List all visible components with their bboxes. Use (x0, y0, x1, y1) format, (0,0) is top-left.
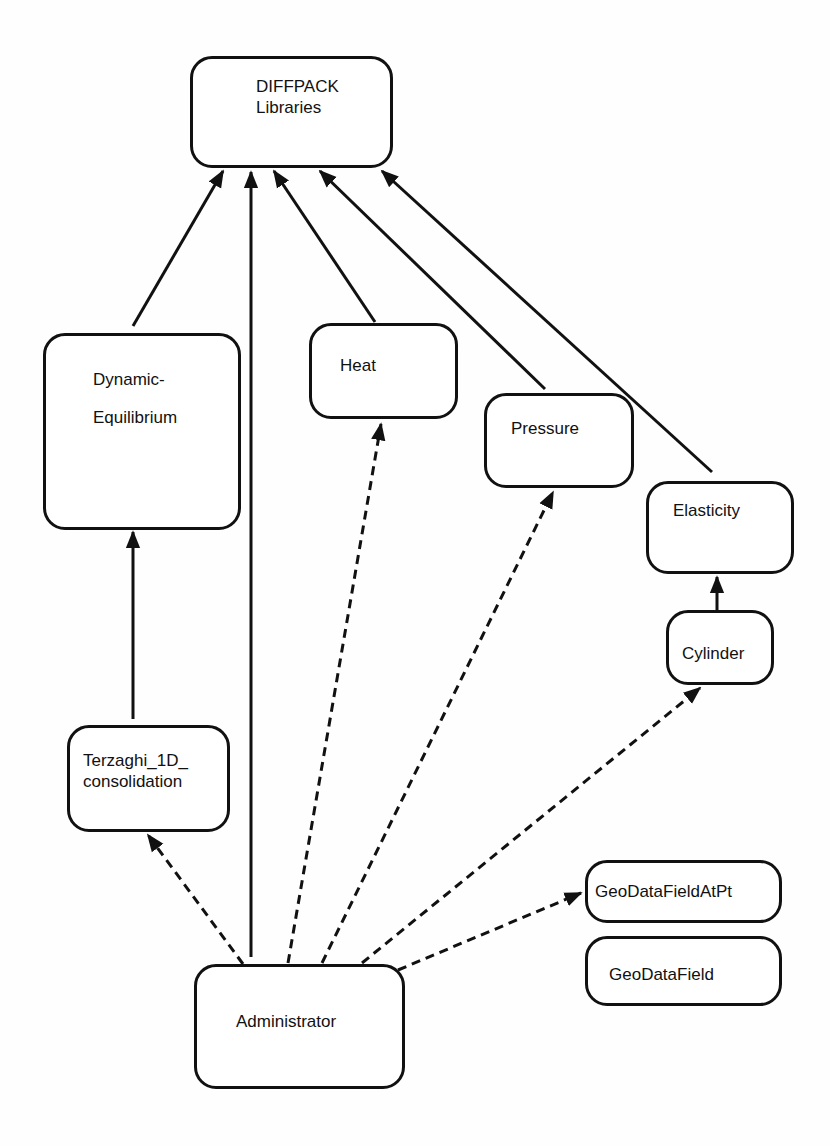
node-label: DIFFPACK Libraries (256, 76, 339, 119)
edge-admin-to-heat (288, 424, 381, 963)
node-dynamic-equilibrium: Dynamic- Equilibrium (43, 333, 241, 530)
node-elasticity: Elasticity (646, 481, 794, 574)
node-diffpack-libraries: DIFFPACK Libraries (190, 56, 393, 168)
node-label: Administrator (236, 1011, 336, 1032)
edge-admin-to-terzaghi (148, 835, 243, 964)
node-label: Dynamic- Equilibrium (93, 370, 177, 427)
node-label: Terzaghi_1D_ consolidation (83, 750, 188, 793)
node-geodatafield: GeoDataField (585, 936, 782, 1006)
node-terzaghi-1d-consolidation: Terzaghi_1D_ consolidation (67, 725, 230, 832)
node-administrator: Administrator (194, 964, 405, 1089)
diagram-canvas: DIFFPACK Libraries Dynamic- Equilibrium … (0, 0, 831, 1146)
node-geodatafieldatpt: GeoDataFieldAtPt (585, 860, 782, 923)
node-label: Cylinder (682, 643, 744, 664)
edge-heat-to-diffpack (274, 171, 375, 322)
node-cylinder: Cylinder (666, 610, 774, 685)
node-label: Heat (340, 355, 376, 376)
node-heat: Heat (309, 323, 458, 419)
node-label: GeoDataField (609, 964, 714, 985)
node-label: Elasticity (673, 500, 740, 521)
node-label: Pressure (511, 418, 579, 439)
node-pressure: Pressure (484, 393, 634, 488)
node-label: GeoDataFieldAtPt (595, 881, 732, 902)
edge-dynamic-to-diffpack (133, 171, 223, 326)
edge-admin-to-geodatafieldatpt (398, 893, 581, 970)
